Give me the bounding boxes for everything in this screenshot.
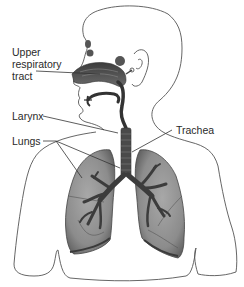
- label-upper-line1: Upper: [12, 46, 72, 58]
- label-upper-line3: tract: [12, 70, 72, 82]
- upper-respiratory-tract-shape: [72, 62, 132, 128]
- sinuses: [85, 40, 125, 66]
- label-larynx: Larynx: [12, 110, 44, 122]
- trachea-shape: [121, 128, 131, 176]
- label-upper-line2: respiratory: [12, 58, 72, 70]
- leader-trachea: [132, 130, 172, 152]
- label-trachea: Trachea: [176, 124, 214, 136]
- ear: [130, 50, 149, 86]
- label-upper-respiratory-tract: Upper respiratory tract: [12, 46, 72, 82]
- label-lungs: Lungs: [12, 135, 41, 147]
